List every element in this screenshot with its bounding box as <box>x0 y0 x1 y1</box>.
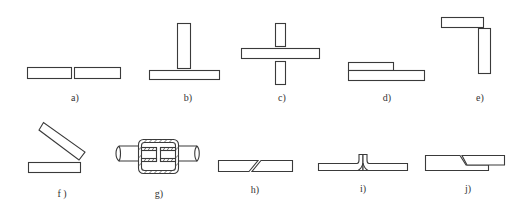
panel-c-cross-joint <box>242 24 320 85</box>
panel-d-label: d) <box>383 93 391 103</box>
panel-j-locked-lap-joint <box>426 156 505 171</box>
panel-f-angled-joint <box>29 123 86 173</box>
panel-b-t-joint <box>150 24 220 80</box>
panel-b-label: b) <box>184 93 192 103</box>
panel-g-sleeve-coupling <box>116 140 199 174</box>
panel-e-corner-joint <box>442 18 491 74</box>
panel-a-butt-joint <box>28 68 121 79</box>
panel-f-label: f ) <box>57 189 66 199</box>
joint-diagram <box>0 0 531 204</box>
panel-e-label: e) <box>476 93 484 103</box>
panel-h-label: h) <box>251 185 259 195</box>
panel-d-lap-joint <box>349 63 425 81</box>
panel-j-label: j) <box>465 184 471 194</box>
panel-i-flanged-joint <box>319 155 408 171</box>
panel-c-label: c) <box>278 93 286 103</box>
panel-g-label: g) <box>155 189 163 199</box>
panel-i-label: i) <box>360 184 366 194</box>
panel-h-scarf-joint <box>219 161 293 172</box>
panel-a-label: a) <box>71 93 79 103</box>
